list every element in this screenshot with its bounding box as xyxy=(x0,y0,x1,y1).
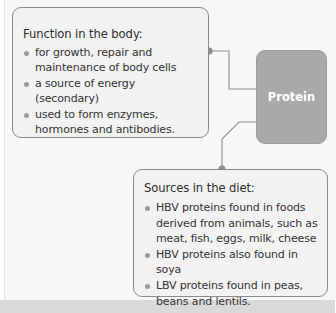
sources-item: HBV proteins also found in soya xyxy=(144,247,321,278)
function-list: for growth, repair and maintenance of bo… xyxy=(23,45,200,137)
bullet-icon xyxy=(24,51,29,56)
central-node-label: Protein xyxy=(268,90,315,104)
bullet-icon xyxy=(145,206,150,211)
sources-box: Sources in the diet: HBV proteins found … xyxy=(133,169,328,297)
sources-list: HBV proteins found in foods derived from… xyxy=(144,200,321,309)
function-box-title: Function in the body: xyxy=(23,27,200,41)
sources-item: HBV proteins found in foods derived from… xyxy=(144,200,321,247)
bullet-icon xyxy=(145,253,150,258)
bullet-icon xyxy=(24,82,29,87)
bullet-icon xyxy=(24,113,29,118)
function-item: a source of energy (secondary) xyxy=(23,76,200,107)
function-item: used to form enzymes, hormones and antib… xyxy=(23,107,200,138)
central-node-protein: Protein xyxy=(256,50,327,144)
bullet-icon xyxy=(145,284,150,289)
sources-box-title: Sources in the diet: xyxy=(144,181,321,195)
function-item: for growth, repair and maintenance of bo… xyxy=(23,45,200,76)
sources-item: LBV proteins found in peas, beans and le… xyxy=(144,278,321,309)
function-box: Function in the body: for growth, repair… xyxy=(12,7,209,138)
